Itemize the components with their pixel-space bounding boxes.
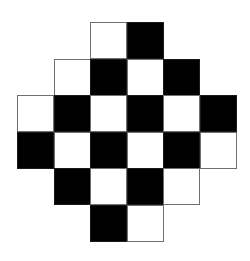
grid-cell-white [90,22,127,59]
grid-cell-black [127,95,164,132]
grid-cell-white [163,95,200,132]
grid-cell-black [54,95,91,132]
grid-cell-black [90,132,127,169]
checkerboard-diamond [0,0,250,261]
grid-cell-black [17,132,54,169]
grid-cell-white [54,132,91,169]
grid-cell-white [17,95,54,132]
grid-cell-black [127,168,164,205]
grid-cell-black [163,132,200,169]
grid-cell-white [127,205,164,242]
grid-cell-white [90,95,127,132]
grid-cell-black [200,95,237,132]
grid-cell-white [200,132,237,169]
grid-cell-black [127,22,164,59]
grid-cell-black [90,59,127,96]
grid-cell-black [54,168,91,205]
grid-cell-white [54,59,91,96]
grid-cell-white [127,59,164,96]
grid-cell-white [90,168,127,205]
grid-cell-white [163,168,200,205]
grid-cell-black [163,59,200,96]
grid-cell-black [90,205,127,242]
grid-cell-white [127,132,164,169]
